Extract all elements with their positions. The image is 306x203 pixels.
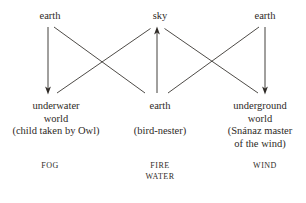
node-bottom-right-line-2: (Snánaz master	[197, 125, 306, 138]
node-top-mid: sky	[118, 10, 202, 23]
arrow-sky-to-underground	[165, 29, 259, 94]
node-bottom-mid-blank-line	[109, 113, 211, 126]
node-top-left-line-0: earth	[8, 10, 92, 23]
node-bottom-mid: earth (bird-nester)	[109, 100, 211, 138]
node-bottom-left-line-2: (child taken by Owl)	[0, 125, 120, 138]
element-fire-water-line-0: FIRE	[118, 160, 202, 171]
element-label-fire-water: FIRE WATER	[118, 160, 202, 182]
node-bottom-right-line-0: underground	[197, 100, 306, 113]
arrow-earth-left-to-earth-mid	[54, 27, 145, 93]
node-top-right-line-0: earth	[223, 10, 306, 23]
element-label-wind: WIND	[223, 160, 306, 171]
arrow-earth-mid-to-earth-right	[168, 27, 259, 93]
element-fog-line-0: FOG	[8, 160, 92, 171]
node-top-left: earth	[8, 10, 92, 23]
diagram-canvas: earth sky earth underwater world (child …	[0, 0, 306, 203]
node-bottom-mid-line-2: (bird-nester)	[109, 125, 211, 138]
arrowhead-earth-left-to-underwater	[45, 87, 51, 95]
element-label-fog: FOG	[8, 160, 92, 171]
node-top-mid-line-0: sky	[118, 10, 202, 23]
node-top-right: earth	[223, 10, 306, 23]
element-wind-line-0: WIND	[223, 160, 306, 171]
node-bottom-left-line-1: world	[0, 113, 120, 126]
node-bottom-right-line-3: of the wind)	[197, 138, 306, 151]
element-fire-water-line-1: WATER	[118, 171, 202, 182]
node-bottom-right: underground world (Snánaz master of the …	[197, 100, 306, 150]
arrow-underwater-to-sky	[57, 29, 151, 94]
arrowhead-earth-right-to-underground	[262, 87, 268, 95]
node-bottom-left: underwater world (child taken by Owl)	[0, 100, 120, 138]
arrowhead-earth-mid-to-sky	[154, 27, 160, 35]
node-bottom-right-line-1: world	[197, 113, 306, 126]
node-bottom-left-line-0: underwater	[0, 100, 120, 113]
node-bottom-mid-line-0: earth	[109, 100, 211, 113]
